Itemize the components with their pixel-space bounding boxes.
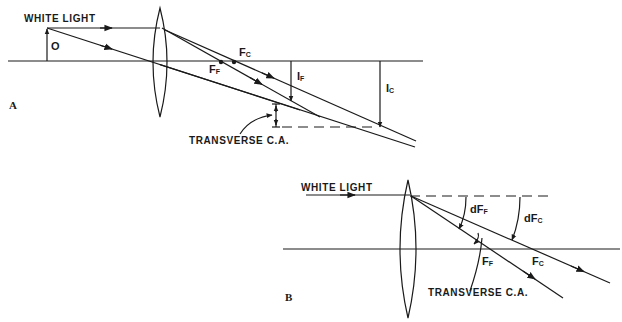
image-f-label: IF [297,70,305,82]
panel-b: WHITE LIGHT B dFF dFC FF FC TRANSVERSE C… [283,180,620,318]
ray-arrow-icon [250,78,262,85]
ray-arrow-icon [100,45,112,49]
ray-arrow-icon [262,73,274,78]
chromatic-aberration-diagram: WHITE LIGHT O A FC FF IF IC TRANSVERSE C… [0,0,622,322]
ray-arrow-icon [571,266,584,272]
focal-point-c [232,60,236,64]
transverse-ca-label-a: TRANSVERSE C.A. [189,135,289,146]
white-light-label: WHITE LIGHT [24,13,96,24]
angle-c-label: dFC [524,212,543,224]
focus-c-label: FC [239,46,251,58]
object-label: O [51,40,60,52]
angle-arc-f [459,197,466,229]
panel-label-a: A [9,99,17,111]
image-c-label: IC [386,82,394,94]
focus-c-label-b: FC [532,255,544,267]
focus-f-label-b: FF [482,255,494,267]
transverse-ca-label-b: TRANSVERSE C.A. [428,287,528,298]
focus-f-label: FF [209,63,221,75]
angle-arc-c [512,197,520,240]
panel-a: WHITE LIGHT O A FC FF IF IC TRANSVERSE C… [8,8,423,147]
panel-label-b: B [285,291,293,303]
angle-f-label: dFF [470,203,488,215]
white-light-label-b: WHITE LIGHT [301,182,373,193]
leader-line-b [470,238,482,291]
ray-arrow-icon [523,271,535,279]
focal-point-f [219,60,223,64]
leader-arrow [240,115,272,134]
